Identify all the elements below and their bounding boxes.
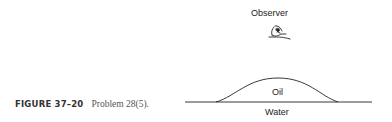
figure-caption: FIGURE 37–20Problem 28(5).: [15, 99, 149, 109]
eye-icon: [269, 26, 290, 39]
figure-number: FIGURE 37–20: [15, 99, 83, 109]
observer-label: Observer: [251, 8, 288, 18]
caption-text: Problem 28(5).: [91, 99, 149, 109]
oil-label: Oil: [272, 87, 283, 97]
water-label: Water: [265, 107, 289, 117]
